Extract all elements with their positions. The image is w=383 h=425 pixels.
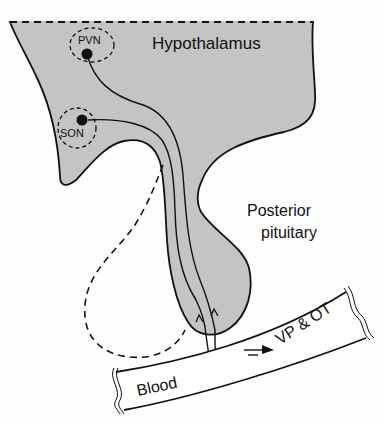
- son-label: SON: [60, 127, 84, 139]
- son-neuron-body: [77, 115, 88, 126]
- diagram-canvas: Hypothalamus PVN SON Posterior pituitary…: [0, 0, 383, 425]
- pvn-neuron-body: [82, 49, 93, 60]
- tissue-shape: [10, 22, 315, 335]
- hypothalamus-label: Hypothalamus: [152, 34, 261, 53]
- hypothalamo-neurohypophyseal-diagram: Hypothalamus PVN SON Posterior pituitary…: [0, 0, 383, 425]
- posterior-pituitary-label-line2: pituitary: [261, 224, 317, 241]
- posterior-pituitary-label-line1: Posterior: [247, 202, 312, 219]
- pvn-label: PVN: [78, 34, 101, 46]
